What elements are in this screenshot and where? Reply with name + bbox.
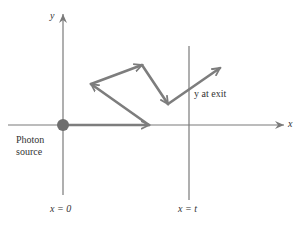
x-t-label: x = t bbox=[178, 203, 197, 214]
x-zero-label: x = 0 bbox=[50, 203, 71, 214]
photon-source-label-line2: source bbox=[16, 146, 42, 157]
y-axis-label: y bbox=[50, 10, 54, 21]
path-step-2-arrow bbox=[91, 84, 149, 125]
y-at-exit-label: y at exit bbox=[194, 88, 226, 99]
path-step-3-arrow bbox=[91, 65, 142, 84]
diagram-canvas bbox=[0, 0, 297, 226]
photon-source-dot bbox=[57, 119, 69, 131]
x-axis-label: x bbox=[288, 118, 292, 129]
path-step-4-arrow bbox=[142, 65, 168, 104]
photon-source-label-line1: Photon bbox=[16, 134, 44, 145]
